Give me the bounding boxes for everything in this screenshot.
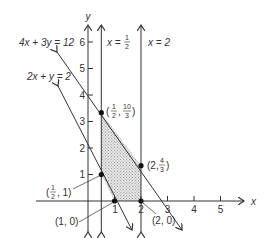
svg-text:x =: x = [106,37,121,48]
vertex-half-one [99,172,104,177]
svg-text:1: 1 [125,34,129,41]
point-label-two-zero: (2, 0) [143,203,175,226]
svg-text:10: 10 [123,103,131,110]
vertex-half-ten-thirds [99,110,104,115]
point-label-one-zero: (1, 0) [55,203,112,227]
y-tick-label: 4 [79,90,85,101]
svg-text:(: ( [106,106,110,117]
point-label-half-one: ( 1 2 , 1) [46,176,99,200]
x-tick-label: 5 [218,204,224,215]
svg-text:2: 2 [125,43,129,50]
svg-text:(1, 0): (1, 0) [55,216,78,227]
line-4x-3y-12-drawn [57,52,182,230]
point-label-half-ten-thirds: ( 1 2 , 10 3 ) [106,103,135,119]
y-tick-label: 1 [79,169,85,180]
svg-text:2: 2 [51,193,55,200]
y-ticks [88,42,93,175]
x-axis-label: x [250,196,257,207]
vertex-two-four-thirds [138,163,143,168]
x-tick-label: 4 [191,204,197,215]
x-tick-label: 2 [138,204,144,215]
y-tick-label: 3 [79,116,85,127]
feasible-region-diagram: 1 2 3 4 5 6 1 2 3 4 5 x y 4x + 3y = 12 2… [0,0,271,238]
line-label-2x-y-2: 2x + y = 2 [26,71,71,82]
y-tick-label: 2 [79,143,85,154]
svg-text:1: 1 [51,184,55,191]
x-tick-label: 1 [112,204,118,215]
svg-text:4: 4 [160,157,164,164]
vertex-two-zero [138,198,143,203]
y-tick-label: 5 [79,63,85,74]
feasible-region [101,113,141,201]
svg-text:1: 1 [112,103,116,110]
y-tick-label: 6 [79,37,85,48]
svg-text:(2, 0): (2, 0) [152,215,175,226]
y-axis-label: y [85,11,92,22]
svg-text:): ) [166,160,169,171]
svg-text:3: 3 [160,166,164,173]
line-label-x-2: x = 2 [147,37,170,48]
svg-text:3: 3 [125,112,129,119]
svg-text:, 1): , 1) [57,187,71,198]
svg-text:(: ( [46,187,50,198]
svg-text:,: , [118,106,121,117]
vertex-one-zero [112,198,117,203]
x-tick-label: 3 [165,204,171,215]
svg-text:): ) [132,106,135,117]
point-label-two-four-thirds: (2, 4 3 ) [147,157,169,173]
line-label-x-half: x = 1 2 [106,34,130,50]
svg-text:2: 2 [112,112,116,119]
svg-text:(2,: (2, [147,160,159,171]
line-label-4x-3y-12: 4x + 3y = 12 [19,37,74,48]
